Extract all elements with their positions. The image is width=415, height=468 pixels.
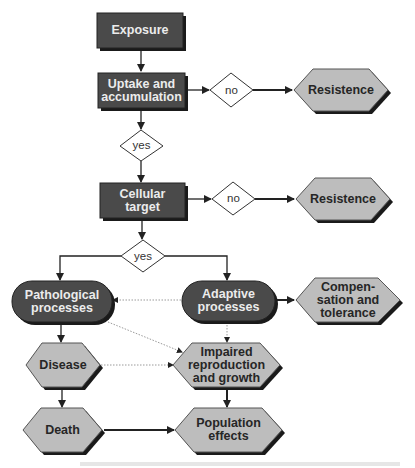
node-adaptive-shape xyxy=(182,281,278,324)
node-decision-cellular-yes-shape xyxy=(121,240,165,272)
node-death-shape xyxy=(23,408,105,455)
node-exposure-shape xyxy=(97,13,186,51)
node-compensation-shape xyxy=(296,278,403,325)
node-decision-uptake-no-shape xyxy=(210,73,253,107)
node-impaired-shape xyxy=(173,343,283,390)
node-cellular-target-shape xyxy=(100,183,188,221)
node-uptake-shape xyxy=(98,73,188,111)
node-decision-cellular-no-shape xyxy=(212,182,255,215)
edge-yes-pathological xyxy=(60,256,121,280)
edge-pathological-impaired xyxy=(108,322,182,352)
node-decision-uptake-yes-shape xyxy=(120,130,163,161)
node-resistence-2-shape xyxy=(296,178,393,223)
node-disease-shape xyxy=(26,343,103,390)
edge-yes-adaptive xyxy=(165,256,227,280)
node-population-shape xyxy=(175,408,285,455)
caption-fragment xyxy=(80,462,400,466)
node-pathological-shape xyxy=(12,281,115,325)
flowchart-canvas xyxy=(0,0,415,468)
node-resistence-1-shape xyxy=(294,69,391,114)
